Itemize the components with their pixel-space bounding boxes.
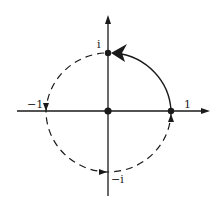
point-i	[105, 50, 111, 56]
label-neg-i: −i	[111, 173, 124, 186]
label-i: i	[97, 38, 101, 51]
imaginary-axis-arrowhead	[105, 15, 111, 24]
arrow-at-one	[168, 114, 174, 122]
origin-point	[104, 107, 111, 114]
point-one	[168, 108, 174, 114]
complex-plane-diagram: 1 i −1 −i	[0, 0, 222, 208]
arrow-at-neg-i	[99, 169, 107, 175]
label-neg-one: −1	[27, 98, 43, 111]
solid-arc-arrowhead	[111, 44, 127, 62]
label-one: 1	[184, 98, 191, 111]
real-axis-arrowhead	[201, 108, 210, 114]
solid-arc	[116, 53, 171, 111]
arrow-at-neg-one	[43, 103, 49, 111]
